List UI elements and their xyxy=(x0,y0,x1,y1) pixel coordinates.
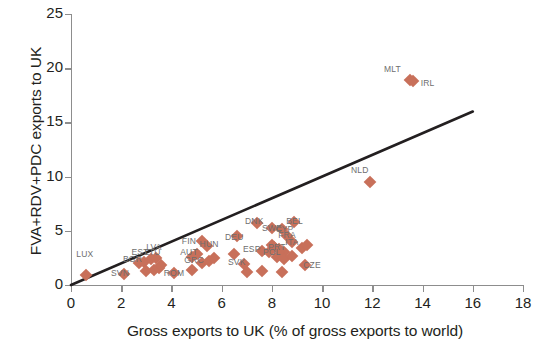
x-tick xyxy=(372,286,373,292)
x-axis-line xyxy=(71,285,524,286)
data-point-label: SVN xyxy=(111,268,129,278)
y-tick-label: 5 xyxy=(23,221,63,238)
data-point-label: LUX xyxy=(76,249,93,259)
x-tick-label: 4 xyxy=(151,294,191,311)
x-tick xyxy=(473,286,474,292)
data-point-label: GRC xyxy=(184,255,204,265)
data-point-label: DNK xyxy=(245,216,264,226)
data-point-label: BEL xyxy=(286,216,303,226)
x-tick xyxy=(322,286,323,292)
x-tick-label: 0 xyxy=(51,294,91,311)
y-axis-title: FVA+RDV+PDC exports to UK xyxy=(27,11,45,291)
data-point-label: HUN xyxy=(200,239,219,249)
data-point-label: ESP xyxy=(243,244,261,254)
y-tick-label: 10 xyxy=(23,167,63,184)
data-point-label: SVK xyxy=(228,257,246,267)
data-point-label: DEU xyxy=(225,232,244,242)
data-point-label: PRT xyxy=(268,242,285,252)
x-tick xyxy=(121,286,122,292)
y-tick-label: 0 xyxy=(23,275,63,292)
data-point-label: ROM xyxy=(164,268,184,278)
x-tick-label: 6 xyxy=(202,294,242,311)
data-point-label: CZE xyxy=(303,260,321,270)
x-axis-title: Gross exports to UK (% of gross exports … xyxy=(60,322,530,340)
data-point-label: ITA xyxy=(285,237,298,247)
x-tick-label: 8 xyxy=(252,294,292,311)
x-tick-label: 16 xyxy=(453,294,493,311)
data-point-label: LVA xyxy=(146,242,161,252)
x-tick xyxy=(523,286,524,292)
x-tick-label: 18 xyxy=(503,294,543,311)
y-tick-label: 15 xyxy=(23,112,63,129)
x-tick xyxy=(423,286,424,292)
y-tick-label: 25 xyxy=(23,4,63,21)
data-point-label: MLT xyxy=(384,64,401,74)
x-tick-label: 10 xyxy=(302,294,342,311)
x-tick xyxy=(71,286,72,292)
data-point-label: IRL xyxy=(421,78,435,88)
x-tick xyxy=(222,286,223,292)
x-tick-label: 14 xyxy=(403,294,443,311)
x-tick xyxy=(171,286,172,292)
x-tick-label: 2 xyxy=(101,294,141,311)
data-point-label: NLD xyxy=(351,165,369,175)
y-tick-label: 20 xyxy=(23,58,63,75)
x-tick-label: 12 xyxy=(352,294,392,311)
plot-area: LUXSVNBGRESTLTULVAROMAUTGRCHUNFINDEUSVKE… xyxy=(71,14,523,285)
data-point-label: FIN xyxy=(182,236,196,246)
scatter-chart: FVA+RDV+PDC exports to UK Gross exports … xyxy=(0,0,544,347)
x-tick xyxy=(272,286,273,292)
